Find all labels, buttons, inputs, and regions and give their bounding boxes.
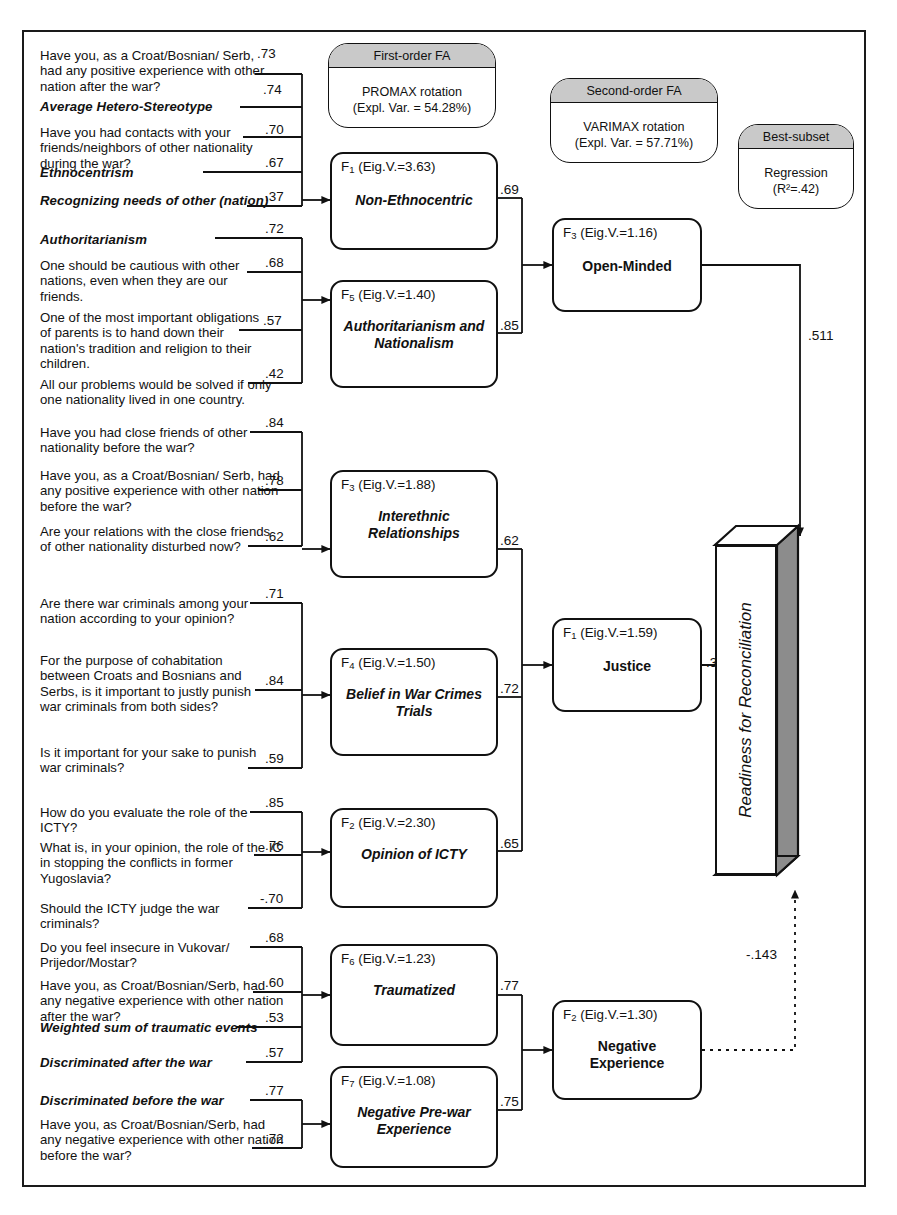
loading-value: .84	[265, 416, 305, 430]
loading-value: .71	[265, 587, 305, 601]
indicator-item: How do you evaluate the role of the ICTY…	[40, 805, 272, 836]
legend-line-1: PROMAX rotation	[362, 84, 462, 100]
indicator-item: Have you, as a Croat/Bosnian/ Serb, had …	[40, 48, 272, 94]
indicator-item: What is, in your opinion, the role of th…	[40, 840, 284, 886]
path-value: .511	[808, 328, 833, 343]
loading-value: .85	[265, 796, 305, 810]
factor-name: Open-Minded	[554, 258, 700, 275]
legend-line-2: (R²=.42)	[773, 181, 820, 197]
loading-value: .37	[265, 190, 305, 204]
factor-head: F1 (Eig.V.=3.63)	[341, 159, 436, 175]
indicator-item: Authoritarianism	[40, 232, 272, 247]
path-value: .62	[500, 533, 519, 548]
indicator-item: Discriminated before the war	[40, 1093, 272, 1108]
factor-head: F3 (Eig.V.=1.88)	[341, 477, 436, 493]
loading-value: .84	[265, 674, 305, 688]
factor-name: Negative Pre-war Experience	[332, 1104, 496, 1137]
factor-box-open-minded[interactable]: F3 (Eig.V.=1.16) Open-Minded	[552, 218, 702, 312]
indicator-item: Have you, as Croat/Bosnian/Serb, had any…	[40, 978, 286, 1024]
factor-box-negative-pre-war-experience[interactable]: F7 (Eig.V.=1.08) Negative Pre-war Experi…	[330, 1066, 498, 1168]
legend-line-2: (Expl. Var. = 54.28%)	[353, 100, 471, 116]
legend-line-1: Regression	[764, 165, 828, 181]
factor-name: Authoritarianism and Nationalism	[332, 318, 496, 351]
loading-value: .59	[265, 752, 305, 766]
loading-value: .57	[265, 1046, 305, 1060]
factor-head: F3 (Eig.V.=1.16)	[563, 225, 658, 241]
indicator-item: Average Hetero-Stereotype	[40, 99, 272, 114]
indicator-item: Have you, as Croat/Bosnian/Serb, had any…	[40, 1117, 286, 1163]
factor-box-belief-in-war-crimes-trials[interactable]: F4 (Eig.V.=1.50) Belief in War Crimes Tr…	[330, 648, 498, 756]
loading-value: .77	[265, 1084, 305, 1098]
indicator-item: Have you had close friends of other nati…	[40, 425, 272, 456]
legend-line-1: VARIMAX rotation	[583, 119, 684, 135]
loading-value: .68	[265, 931, 305, 945]
loading-value: .67	[265, 156, 305, 170]
loading-value: .73	[257, 47, 297, 61]
indicator-item: Weighted sum of traumatic events	[40, 1020, 272, 1035]
loading-value: .60	[265, 976, 305, 990]
factor-box-traumatized[interactable]: F6 (Eig.V.=1.23) Traumatized	[330, 944, 498, 1046]
loading-value: .57	[263, 314, 303, 328]
indicator-item: All our problems would be solved if only…	[40, 377, 286, 408]
indicator-item: Do you feel insecure in Vukovar/ Prijedo…	[40, 940, 278, 971]
indicator-item: Discriminated after the war	[40, 1055, 272, 1070]
legend-header: Second-order FA	[551, 79, 717, 103]
factor-head: F1 (Eig.V.=1.59)	[563, 625, 658, 641]
loading-value: .62	[265, 530, 305, 544]
indicator-item: For the purpose of cohabitation between …	[40, 653, 272, 715]
factor-name: Traumatized	[332, 982, 496, 999]
path-value: .77	[500, 978, 519, 993]
factor-box-opinion-of-icty[interactable]: F2 (Eig.V.=2.30) Opinion of ICTY	[330, 808, 498, 908]
legend-header: First-order FA	[329, 44, 495, 68]
indicator-item: One of the most important obligations of…	[40, 310, 272, 372]
factor-head: F2 (Eig.V.=1.30)	[563, 1007, 658, 1023]
path-value: -.143	[746, 947, 777, 962]
outcome-prism[interactable]: Readiness for Reconciliation	[715, 545, 777, 875]
factor-head: F6 (Eig.V.=1.23)	[341, 951, 436, 967]
factor-box-justice[interactable]: F1 (Eig.V.=1.59) Justice	[552, 618, 702, 712]
path-value: .85	[500, 318, 519, 333]
indicator-item: One should be cautious with other nation…	[40, 258, 272, 304]
factor-box-authoritarianism-nationalism[interactable]: F5 (Eig.V.=1.40) Authoritarianism and Na…	[330, 280, 498, 388]
indicator-item: Is it important for your sake to punish …	[40, 745, 272, 776]
path-value: .69	[500, 182, 519, 197]
legend-first-order-fa: First-order FA PROMAX rotation (Expl. Va…	[328, 43, 496, 128]
loading-value: .53	[265, 1011, 305, 1025]
outcome-label: Readiness for Reconciliation	[736, 602, 756, 817]
path-value: .72	[500, 681, 519, 696]
loading-value: .78	[265, 474, 305, 488]
factor-box-negative-experience[interactable]: F2 (Eig.V.=1.30) Negative Experience	[552, 1000, 702, 1100]
indicator-item: Ethnocentrism	[40, 165, 272, 180]
loading-value: -.70	[260, 892, 300, 906]
indicator-item: Are there war criminals among your natio…	[40, 596, 272, 627]
loading-value: .72	[265, 222, 305, 236]
path-value: .75	[500, 1094, 519, 1109]
loading-value: .42	[265, 367, 305, 381]
legend-best-subset: Best-subset Regression (R²=.42)	[738, 124, 854, 209]
factor-name: Interethnic Relationships	[332, 508, 496, 541]
factor-name: Non-Ethnocentric	[332, 192, 496, 209]
loading-value: .74	[263, 83, 303, 97]
loading-value: .70	[265, 123, 305, 137]
loading-value: .76	[265, 839, 305, 853]
indicator-item: Should the ICTY judge the war criminals?	[40, 901, 278, 932]
factor-name: Opinion of ICTY	[332, 846, 496, 863]
legend-header: Best-subset	[739, 125, 853, 149]
indicator-item: Have you, as a Croat/Bosnian/ Serb, had …	[40, 468, 282, 514]
indicator-item: Recognizing needs of other (nation)	[40, 193, 272, 208]
factor-head: F4 (Eig.V.=1.50)	[341, 655, 436, 671]
factor-head: F5 (Eig.V.=1.40)	[341, 287, 436, 303]
loading-value: .68	[265, 256, 305, 270]
factor-head: F7 (Eig.V.=1.08)	[341, 1073, 436, 1089]
legend-second-order-fa: Second-order FA VARIMAX rotation (Expl. …	[550, 78, 718, 163]
factor-box-non-ethnocentric[interactable]: F1 (Eig.V.=3.63) Non-Ethnocentric	[330, 152, 498, 250]
factor-box-interethnic-relationships[interactable]: F3 (Eig.V.=1.88) Interethnic Relationshi…	[330, 470, 498, 578]
factor-head: F2 (Eig.V.=2.30)	[341, 815, 436, 831]
indicator-item: Are your relations with the close friend…	[40, 524, 272, 555]
factor-name: Negative Experience	[554, 1038, 700, 1071]
loading-value: .72	[265, 1132, 305, 1146]
factor-name: Justice	[554, 658, 700, 675]
path-value: .65	[500, 836, 519, 851]
factor-name: Belief in War Crimes Trials	[332, 686, 496, 719]
legend-line-2: (Expl. Var. = 57.71%)	[575, 135, 693, 151]
